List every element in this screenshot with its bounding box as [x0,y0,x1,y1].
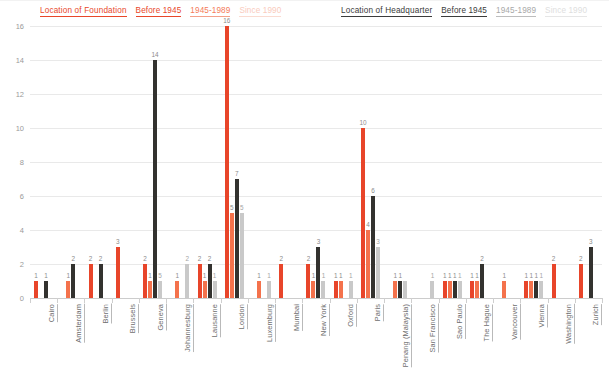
bar[interactable]: 1 [430,281,434,298]
x-axis-tick [520,298,521,303]
bar[interactable]: 2 [279,264,283,298]
x-axis-label-vienna: Vienna [537,304,548,327]
x-axis-label-luxemburg: Luxemburg [265,304,276,342]
bar[interactable]: 2 [185,264,189,298]
x-axis-tick [411,298,412,303]
bar[interactable]: 1 [311,281,315,298]
bar[interactable]: 1 [203,281,207,298]
bar[interactable]: 1 [524,281,528,298]
bar[interactable]: 3 [589,247,593,298]
bar[interactable]: 1 [539,281,543,298]
x-axis-tick [493,298,494,303]
bar-value-label: 1 [502,272,506,279]
bar[interactable]: 1 [349,281,353,298]
x-axis-tick [384,298,385,303]
bar[interactable]: 2 [99,264,103,298]
bar[interactable]: 2 [306,264,310,298]
x-axis-label-lausanne: Lausanne [210,304,221,337]
bar[interactable]: 1 [213,281,217,298]
bar-value-label: 2 [208,255,212,262]
bar[interactable]: 6 [371,196,375,298]
bar[interactable]: 14 [153,60,157,298]
bar-value-label: 1 [44,272,48,279]
bar[interactable]: 2 [89,264,93,298]
y-axis-label-12: 12 [2,90,24,99]
bar[interactable]: 2 [143,264,147,298]
bar[interactable]: 1 [529,281,533,298]
bar-value-label: 1 [312,272,316,279]
x-axis-tick [466,298,467,303]
x-axis-label-berlin: Berlin [101,304,112,324]
legend-item-foundation-before-1945[interactable]: Before 1945 [136,6,182,17]
bar-value-label: 1 [458,272,462,279]
bar[interactable]: 10 [361,128,365,298]
bar-group: 11 [384,26,411,298]
legend-title-foundation[interactable]: Location of Foundation [40,6,127,17]
bar[interactable]: 1 [148,281,152,298]
bar[interactable]: 1 [66,281,70,298]
bar[interactable]: 2 [198,264,202,298]
bar-group: 11 [248,26,275,298]
legend-item-foundation-since-1990[interactable]: Since 1990 [239,6,281,17]
bar[interactable]: 1 [475,281,479,298]
bar[interactable]: 3 [376,247,380,298]
bar-value-label: 1 [257,272,261,279]
bar[interactable]: 1 [321,281,325,298]
bar-value-label: 6 [371,187,375,194]
bar[interactable]: 1 [267,281,271,298]
bar[interactable]: 5 [158,281,162,298]
bar[interactable]: 5 [230,213,234,298]
bar-value-label: 1 [393,272,397,279]
legend-item-foundation-1945-1989[interactable]: 1945-1989 [190,6,230,17]
plot-area: 1112223211451221211657511221311111046311… [30,26,602,298]
x-axis-label-cairo: Cairo [47,304,58,322]
legend-item-headquarter-1945-1989[interactable]: 1945-1989 [496,6,536,17]
bar[interactable] [403,281,407,298]
bar[interactable]: 1 [448,281,452,298]
bar[interactable]: 4 [366,230,370,298]
bar-group: 11 [30,26,57,298]
bar-value-label: 5 [230,204,234,211]
bar[interactable]: 2 [552,264,556,298]
bar[interactable]: 1 [334,281,338,298]
bar-value-label: 1 [148,272,152,279]
bar[interactable]: 2 [71,264,75,298]
bar-value-label: 1 [322,272,326,279]
bar[interactable]: 1 [393,281,397,298]
bar[interactable]: 1 [458,281,462,298]
bar[interactable]: 16 [225,26,229,298]
bar[interactable]: 1 [534,281,538,298]
bar-group: 12 [166,26,193,298]
bar[interactable]: 1 [443,281,447,298]
bar[interactable]: 1 [175,281,179,298]
bar[interactable]: 2 [480,264,484,298]
y-axis-label-0: 0 [2,294,24,303]
x-axis-tick [248,298,249,303]
legend-item-headquarter-before-1945[interactable]: Before 1945 [441,6,487,17]
bar[interactable]: 1 [339,281,343,298]
bar[interactable]: 3 [316,247,320,298]
bar[interactable]: 1 [470,281,474,298]
bar-value-label: 2 [99,255,103,262]
bar[interactable]: 1 [398,281,402,298]
legend-item-headquarter-since-1990[interactable]: Since 1990 [545,6,587,17]
bar-value-label: 1 [443,272,447,279]
bar-value-label: 1 [203,272,207,279]
bar[interactable]: 1 [34,281,38,298]
x-axis-tick [221,298,222,303]
bar[interactable]: 3 [116,247,120,298]
bar-value-label: 14 [151,51,158,58]
bar[interactable]: 7 [235,179,239,298]
bar[interactable]: 1 [44,281,48,298]
bar[interactable]: 2 [208,264,212,298]
bar[interactable]: 5 [240,213,244,298]
x-axis-label-paris: Paris [373,304,384,321]
legend-title-headquarter[interactable]: Location of Headquarter [341,6,432,17]
bar-value-label: 1 [339,272,343,279]
bar[interactable]: 2 [579,264,583,298]
bar-group: 23 [575,26,602,298]
bar-group: 2 [275,26,302,298]
bar[interactable]: 1 [257,281,261,298]
bar[interactable]: 1 [502,281,506,298]
bar[interactable]: 1 [453,281,457,298]
